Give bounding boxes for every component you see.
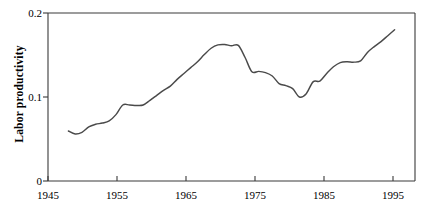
plot-area [0, 0, 431, 214]
plot-frame [48, 13, 415, 181]
data-line-labor-productivity [68, 30, 394, 134]
x-axis-ticks [48, 176, 393, 181]
chart-figure: Labor productivity 0.2 0.1 0 1945 1955 1… [0, 0, 431, 214]
y-axis-ticks [43, 13, 48, 181]
